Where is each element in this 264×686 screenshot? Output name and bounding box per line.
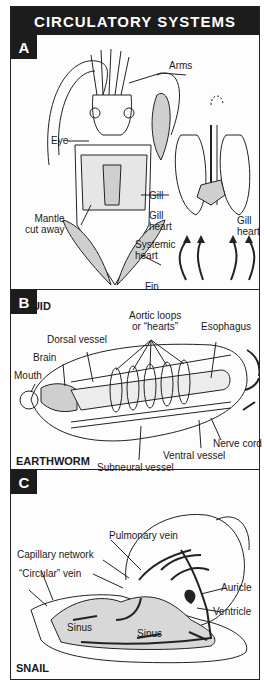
label-systemic-heart: Systemic heart [135,239,176,261]
panel-earthworm: B Aortic loops or “hearts” [11,289,259,469]
label-eye: Eye [51,135,68,146]
label-nerve-cord: Nerve cord [213,438,262,449]
label-arms: Arms [169,60,192,71]
label-aortic-loops: Aortic loops or “hearts” [129,310,181,332]
label-auricle: Auricle [221,582,252,593]
label-systemic-line1: Systemic [135,239,176,250]
label-mouth: Mouth [14,370,42,381]
label-gill-heart-left-line2: heart [149,221,172,232]
label-aortic-line2: or “hearts” [132,321,178,332]
label-sinus-left: Sinus [67,622,92,633]
label-dorsal-vessel: Dorsal vessel [47,334,107,345]
label-esophagus: Esophagus [201,321,251,332]
diagram-frame: CIRCULATORY SYSTEMS A [10,6,260,680]
panel-squid: A [11,35,259,289]
label-brain: Brain [33,352,56,363]
organism-earthworm: EARTHWORM [16,455,90,467]
label-circular-vein: “Circular” vein [19,568,81,579]
label-ventricle: Ventricle [213,606,251,617]
label-sinus-right: Sinus [137,628,162,639]
label-mantle: Mantle cut away [25,213,64,235]
label-aortic-line1: Aortic loops [129,310,181,321]
label-ventral-vessel: Ventral vessel [163,450,225,461]
label-gill-heart-left-line1: Gill [149,210,163,221]
label-pulmonary-vein: Pulmonary vein [109,530,178,541]
label-gill-heart-right-line1: Gill [237,215,251,226]
label-gill-heart-right: Gill heart [237,215,260,237]
label-gill-heart-left: Gill heart [149,210,172,232]
label-systemic-line2: heart [135,250,158,261]
page-title: CIRCULATORY SYSTEMS [11,7,259,35]
label-capillary-network: Capillary network [17,549,94,560]
label-mantle-line1: Mantle [34,213,64,224]
label-mantle-line2: cut away [25,224,64,235]
organism-snail: SNAIL [16,662,49,674]
panel-snail: C Pulmonary vein Capillary network “Circ… [11,469,259,681]
label-gill-heart-right-line2: heart [237,226,260,237]
label-gill: Gill [149,190,163,201]
